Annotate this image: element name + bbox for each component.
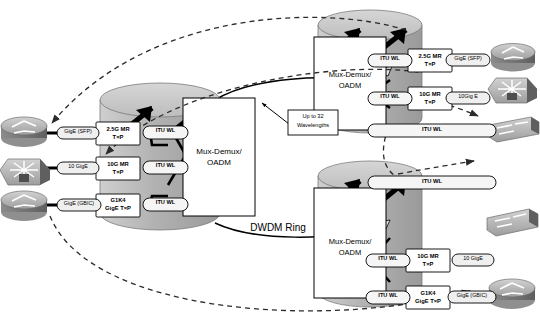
northeast-card-0-line2: T×P (408, 61, 452, 67)
southeast-card-1-line1: G1K4 (406, 290, 450, 296)
west-card-2-line1: G1K4 (96, 197, 140, 203)
northeast-itu-label-0: ITU WL (368, 56, 412, 62)
southeast-mux-label-line1: Mux-Demux/ (314, 238, 386, 246)
device-west-router-top (1, 117, 47, 147)
southeast-card-0-line2: T×P (406, 261, 450, 267)
west-mux-label-line2: OADM (183, 159, 255, 167)
device-southeast-workgroup-switch (487, 209, 538, 236)
device-west-multilayer-switch (0, 159, 50, 185)
node-west-mux-panel (183, 98, 255, 216)
southeast-card-1-line2: GigE T×P (406, 298, 450, 304)
southeast-client-label-0: 10 GigE (452, 256, 494, 262)
callout-line1: Up to 32 (288, 114, 338, 120)
west-card-1-line1: 10G MR (96, 161, 140, 167)
callout-leader-line (262, 103, 289, 124)
southeast-through-bar-label: ITU WL (368, 178, 496, 184)
southeast-client-label-1: GigE (GBIC) (448, 293, 496, 299)
northeast-itu-label-1: ITU WL (368, 94, 412, 100)
dwdm-ring-diagram: GigE (SFP) 10 GigE GigE (GBIC) 2.5G MR T… (0, 0, 540, 323)
west-client-label-2: GigE (GBIC) (57, 201, 101, 207)
northeast-mux-label-line1: Mux-Demux/ (314, 71, 386, 79)
northeast-through-bar-label: ITU WL (368, 126, 496, 132)
west-card-0-line2: T×P (96, 134, 140, 140)
west-mux-label-line1: Mux-Demux/ (183, 148, 255, 156)
northeast-card-1-line2: T×P (408, 99, 452, 105)
dwdm-ring-label: DWDM Ring (238, 223, 318, 234)
southeast-card-0-line1: 10G MR (406, 253, 450, 259)
west-itu-label-0: ITU WL (143, 128, 188, 134)
southeast-itu-label-0: ITU WL (366, 256, 410, 262)
device-northeast-workgroup-switch (489, 117, 539, 142)
west-card-2-line2: GigE T×P (96, 205, 140, 211)
northeast-client-label-0: GigE (SFP) (446, 56, 490, 62)
southeast-itu-label-1: ITU WL (366, 293, 410, 299)
device-west-router-bottom (1, 191, 47, 221)
west-itu-label-1: ITU WL (143, 163, 188, 169)
west-client-label-0: GigE (SFP) (57, 129, 99, 135)
northeast-mux-label-line2: OADM (314, 82, 386, 90)
west-card-1-line2: T×P (96, 169, 140, 175)
west-card-0-line1: 2.5G MR (96, 126, 140, 132)
west-itu-label-2: ITU WL (143, 200, 188, 206)
device-northeast-multilayer-switch (488, 78, 537, 103)
device-northeast-router (491, 44, 535, 72)
callout-line2: Wavelengths (286, 123, 340, 129)
west-client-label-1: 10 GigE (57, 164, 99, 170)
diagram-canvas (0, 0, 540, 323)
northeast-client-label-1: 10Gig E (446, 94, 490, 100)
